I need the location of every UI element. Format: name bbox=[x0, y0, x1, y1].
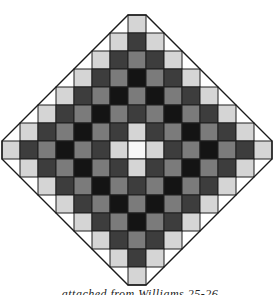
grid-cell bbox=[56, 123, 74, 141]
grid-cell bbox=[128, 213, 146, 231]
grid-cell bbox=[74, 159, 92, 177]
grid-cell bbox=[38, 177, 56, 195]
grid-cell bbox=[182, 141, 200, 159]
grid-cell bbox=[146, 249, 164, 267]
grid-cell bbox=[146, 195, 164, 213]
diamond-grid-svg bbox=[0, 0, 280, 295]
grid-cell bbox=[38, 123, 56, 141]
grid-cell bbox=[128, 15, 146, 33]
grid-cell bbox=[236, 141, 254, 159]
grid-cell bbox=[164, 159, 182, 177]
grid-cell bbox=[110, 51, 128, 69]
grid-cell bbox=[182, 105, 200, 123]
grid-cell bbox=[146, 87, 164, 105]
grid-cells bbox=[2, 15, 272, 285]
grid-cell bbox=[146, 51, 164, 69]
grid-cell bbox=[164, 213, 182, 231]
grid-cell bbox=[146, 33, 164, 51]
grid-cell bbox=[164, 105, 182, 123]
grid-cell bbox=[74, 213, 92, 231]
grid-cell bbox=[128, 123, 146, 141]
grid-cell bbox=[92, 69, 110, 87]
grid-cell bbox=[146, 105, 164, 123]
grid-cell bbox=[200, 141, 218, 159]
grid-cell bbox=[128, 105, 146, 123]
grid-cell bbox=[164, 87, 182, 105]
grid-cell bbox=[56, 195, 74, 213]
grid-cell bbox=[74, 195, 92, 213]
grid-cell bbox=[254, 141, 272, 159]
grid-cell bbox=[92, 105, 110, 123]
grid-cell bbox=[92, 195, 110, 213]
grid-cell bbox=[20, 141, 38, 159]
grid-cell bbox=[20, 123, 38, 141]
grid-cell bbox=[92, 159, 110, 177]
grid-cell bbox=[38, 159, 56, 177]
grid-cell bbox=[182, 87, 200, 105]
grid-cell bbox=[74, 123, 92, 141]
grid-cell bbox=[56, 87, 74, 105]
grid-cell bbox=[146, 159, 164, 177]
grid-cell bbox=[110, 141, 128, 159]
grid-cell bbox=[200, 105, 218, 123]
diamond-pattern-figure bbox=[0, 0, 280, 295]
grid-cell bbox=[74, 141, 92, 159]
grid-cell bbox=[164, 195, 182, 213]
grid-cell bbox=[110, 231, 128, 249]
grid-cell bbox=[200, 87, 218, 105]
grid-cell bbox=[38, 105, 56, 123]
grid-cell bbox=[182, 177, 200, 195]
grid-cell bbox=[128, 159, 146, 177]
grid-cell bbox=[182, 213, 200, 231]
grid-cell bbox=[200, 159, 218, 177]
grid-cell bbox=[164, 123, 182, 141]
grid-cell bbox=[200, 177, 218, 195]
grid-cell bbox=[128, 69, 146, 87]
grid-cell bbox=[110, 87, 128, 105]
grid-cell bbox=[128, 51, 146, 69]
grid-cell bbox=[182, 69, 200, 87]
grid-cell bbox=[146, 231, 164, 249]
grid-cell bbox=[74, 177, 92, 195]
grid-cell bbox=[20, 159, 38, 177]
grid-cell bbox=[110, 123, 128, 141]
grid-cell bbox=[110, 213, 128, 231]
grid-cell bbox=[128, 267, 146, 285]
grid-cell bbox=[128, 87, 146, 105]
grid-cell bbox=[182, 195, 200, 213]
grid-cell bbox=[74, 69, 92, 87]
grid-cell bbox=[146, 213, 164, 231]
grid-cell bbox=[218, 177, 236, 195]
grid-cell bbox=[92, 177, 110, 195]
grid-cell bbox=[164, 177, 182, 195]
grid-cell bbox=[110, 159, 128, 177]
grid-cell bbox=[2, 141, 20, 159]
grid-cell bbox=[128, 33, 146, 51]
grid-cell bbox=[146, 69, 164, 87]
grid-cell bbox=[92, 231, 110, 249]
grid-cell bbox=[236, 159, 254, 177]
figure-caption: attached from Williams 25-26 bbox=[0, 287, 280, 295]
grid-cell bbox=[92, 213, 110, 231]
grid-cell bbox=[218, 105, 236, 123]
grid-cell bbox=[128, 231, 146, 249]
grid-cell bbox=[146, 123, 164, 141]
grid-cell bbox=[128, 177, 146, 195]
grid-cell bbox=[146, 141, 164, 159]
grid-cell bbox=[56, 159, 74, 177]
grid-cell bbox=[110, 177, 128, 195]
grid-cell bbox=[182, 123, 200, 141]
grid-cell bbox=[164, 51, 182, 69]
grid-cell bbox=[110, 105, 128, 123]
grid-cell bbox=[110, 69, 128, 87]
grid-cell bbox=[56, 141, 74, 159]
grid-cell bbox=[200, 195, 218, 213]
grid-cell bbox=[236, 123, 254, 141]
grid-cell bbox=[110, 249, 128, 267]
grid-cell bbox=[128, 141, 146, 159]
grid-cell bbox=[200, 123, 218, 141]
grid-cell bbox=[92, 123, 110, 141]
grid-cell bbox=[218, 123, 236, 141]
grid-cell bbox=[164, 69, 182, 87]
grid-cell bbox=[56, 105, 74, 123]
